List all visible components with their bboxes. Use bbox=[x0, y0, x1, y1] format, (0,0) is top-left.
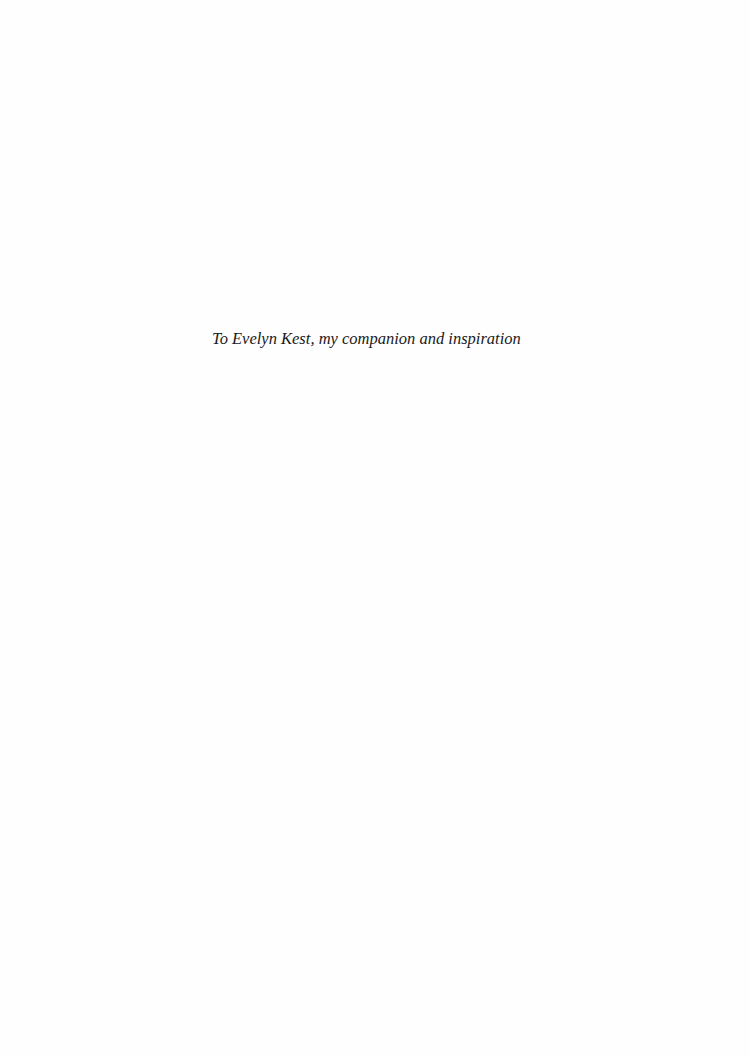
document-page: To Evelyn Kest, my companion and inspira… bbox=[0, 0, 750, 1056]
dedication-text: To Evelyn Kest, my companion and inspira… bbox=[212, 329, 521, 349]
